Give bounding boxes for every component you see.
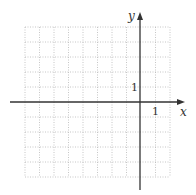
x-tick-label: 1 bbox=[152, 105, 159, 118]
y-tick-label: 1 bbox=[131, 81, 138, 94]
y-axis bbox=[137, 12, 143, 190]
y-axis-arrow-icon bbox=[137, 12, 143, 20]
coordinate-plane: x y 1 1 bbox=[0, 0, 196, 195]
x-axis-label: x bbox=[180, 105, 187, 119]
y-axis-label: y bbox=[127, 9, 135, 23]
